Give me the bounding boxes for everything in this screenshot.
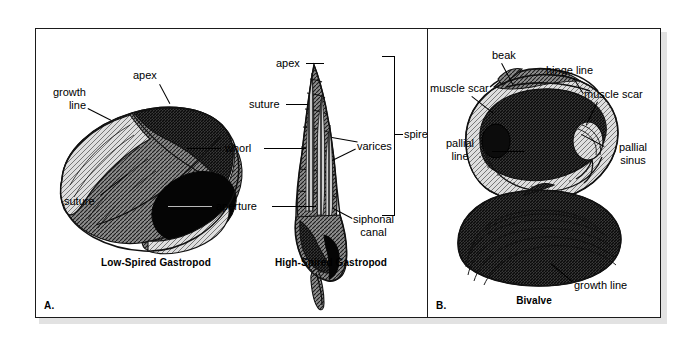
label-siphonal-word2: canal [353, 226, 394, 239]
spire-bracket [382, 56, 395, 216]
panel-b-bivalve: beak hinge line muscle scar muscle scar … [427, 29, 662, 317]
label-growth-line-low-word2: line [69, 99, 86, 111]
panel-b-letter: B. [436, 300, 446, 311]
label-beak: beak [492, 49, 516, 62]
label-spire: spire [404, 128, 428, 141]
label-suture-high: suture [249, 98, 280, 111]
caption-bivalve: Bivalve [474, 295, 594, 306]
label-pallial-line: pallial line [430, 137, 490, 162]
label-muscle-scar-right: muscle scar [584, 88, 643, 101]
label-growth-line-bivalve: growth line [574, 279, 627, 292]
label-hinge-line: hinge line [546, 64, 593, 77]
leader-aperture-left [168, 206, 212, 207]
label-pallial-sinus-word1: pallial [619, 141, 647, 153]
label-apex-low: apex [133, 69, 157, 82]
high-spired-gastropod-drawing [295, 65, 346, 310]
label-pallial-sinus: pallial sinus [606, 141, 660, 166]
panel-a-letter: A. [44, 300, 54, 311]
label-growth-line-low: growth line [34, 86, 86, 111]
label-suture-low: suture [64, 195, 95, 208]
leader-whorl-left [187, 148, 221, 149]
leader-whorl-right [264, 148, 306, 149]
figure-frame: growth line apex suture whorl aperture a… [35, 28, 661, 318]
label-muscle-scar-left: muscle scar [430, 82, 489, 95]
caption-low-spired: Low-Spired Gastropod [76, 257, 236, 268]
low-spired-gastropod-drawing [60, 107, 248, 256]
label-siphonal-canal: siphonal canal [353, 213, 394, 238]
leader-aperture-right [272, 206, 316, 207]
bivalve-lower-valve-exterior [458, 183, 621, 286]
label-aperture: aperture [216, 200, 257, 213]
leader-suture-high [286, 104, 308, 105]
panel-a-gastropods: growth line apex suture whorl aperture a… [36, 29, 427, 317]
panel-a-illustrations [36, 29, 427, 319]
leader-apex-high [306, 63, 324, 64]
label-growth-line-low-word1: growth [53, 86, 86, 98]
label-pallial-sinus-word2: sinus [620, 154, 646, 166]
spire-bracket-tick [394, 134, 403, 135]
caption-high-spired: High-Spired Gastropod [246, 257, 416, 268]
leader-pallial-line [492, 151, 524, 152]
label-apex-high: apex [276, 57, 300, 70]
label-pallial-line-word2: line [451, 150, 468, 162]
label-pallial-line-word1: pallial [446, 137, 474, 149]
label-whorl: whorl [225, 142, 251, 155]
